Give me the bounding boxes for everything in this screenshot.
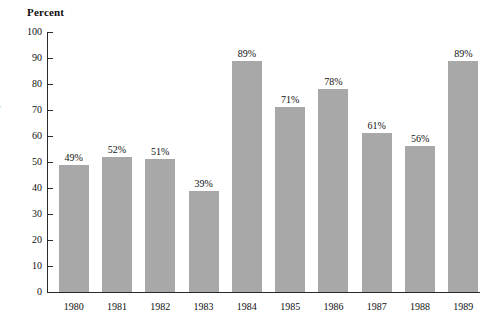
x-axis-tick-label: 1980 (64, 301, 84, 312)
y-axis-tick-label: 0 (37, 287, 42, 297)
y-axis-tick-label: 70 (32, 105, 42, 115)
y-axis-tick-label: 20 (32, 235, 42, 245)
x-axis-tick-label: 1985 (280, 301, 300, 312)
bar-group: 52% (102, 32, 132, 292)
bar-chart: d- % d Percent 0102030405060708090100 49… (0, 0, 496, 323)
y-axis-tick-label: 80 (32, 79, 42, 89)
bar (448, 61, 478, 292)
bar-group: 39% (189, 32, 219, 292)
chart-title: Percent (27, 6, 64, 18)
bar-group: 49% (59, 32, 89, 292)
bar (362, 133, 392, 292)
x-axis-tick-label: 1989 (453, 301, 473, 312)
bar-group: 78% (318, 32, 348, 292)
plot-area: 0102030405060708090100 49%52%51%39%89%71… (47, 32, 480, 292)
bar-value-label: 61% (368, 120, 386, 131)
bar-group: 71% (275, 32, 305, 292)
bar-value-label: 78% (324, 76, 342, 87)
bars-layer: 49%52%51%39%89%71%78%61%56%89% (47, 32, 480, 292)
bar-group: 56% (405, 32, 435, 292)
x-axis-labels: 1980198119821983198419851986198719881989 (47, 295, 480, 317)
bar (102, 157, 132, 292)
x-axis-tick-label: 1986 (323, 301, 343, 312)
bar-value-label: 52% (108, 144, 126, 155)
bar-value-label: 89% (454, 48, 472, 59)
bar-group: 89% (232, 32, 262, 292)
bar (189, 191, 219, 292)
bar-value-label: 39% (194, 178, 212, 189)
y-axis-tick-label: 40 (32, 183, 42, 193)
bar (232, 61, 262, 292)
bar-value-label: 71% (281, 94, 299, 105)
bar-value-label: 51% (151, 146, 169, 157)
y-axis-tick-mark (48, 292, 53, 293)
y-axis-tick-label: 90 (32, 53, 42, 63)
bar-value-label: 56% (411, 133, 429, 144)
x-axis-tick-label: 1982 (150, 301, 170, 312)
bar (318, 89, 348, 292)
bar (59, 165, 89, 292)
y-axis-tick-label: 60 (32, 131, 42, 141)
x-axis-tick-label: 1988 (410, 301, 430, 312)
bar-group: 51% (145, 32, 175, 292)
x-axis-tick-label: 1983 (194, 301, 214, 312)
x-axis-tick-label: 1984 (237, 301, 257, 312)
y-axis-tick-label: 100 (27, 27, 42, 37)
bar-group: 89% (448, 32, 478, 292)
bar (145, 159, 175, 292)
x-axis-tick-label: 1987 (367, 301, 387, 312)
y-axis-tick-label: 10 (32, 261, 42, 271)
bar-value-label: 89% (238, 48, 256, 59)
x-axis-tick-label: 1981 (107, 301, 127, 312)
y-axis-tick-label: 50 (32, 157, 42, 167)
bar-value-label: 49% (64, 152, 82, 163)
bar (405, 146, 435, 292)
bar-group: 61% (362, 32, 392, 292)
bar (275, 107, 305, 292)
x-axis-line (47, 292, 480, 293)
y-axis-tick-label: 30 (32, 209, 42, 219)
margin-text-fragments: d- % d (0, 60, 14, 130)
